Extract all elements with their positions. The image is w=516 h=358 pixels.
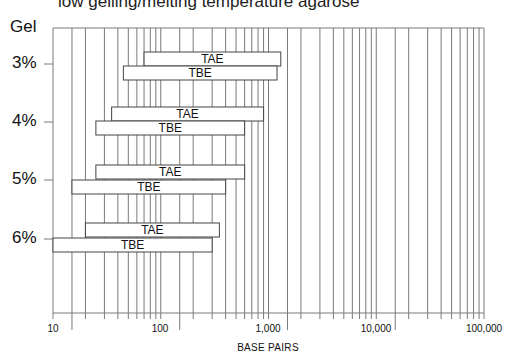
plot-area (0, 0, 516, 358)
bar-label-tbe: TBE (137, 180, 160, 194)
bar-label-tae: TAE (201, 52, 223, 66)
bar-label-tbe: TBE (189, 66, 212, 80)
x-tick-10000: 10,000 (361, 323, 392, 334)
x-axis-title: BASE PAIRS (237, 342, 299, 353)
bar-label-tae: TAE (141, 223, 163, 237)
x-tick-100000: 100,000 (466, 323, 502, 334)
bar-label-tae: TAE (176, 107, 198, 121)
bar-label-tae: TAE (159, 165, 181, 179)
x-tick-10: 10 (47, 323, 58, 334)
x-tick-100: 100 (152, 323, 169, 334)
bar-label-tbe: TBE (159, 121, 182, 135)
bar-label-tbe: TBE (121, 238, 144, 252)
x-tick-1000: 1,000 (255, 323, 280, 334)
